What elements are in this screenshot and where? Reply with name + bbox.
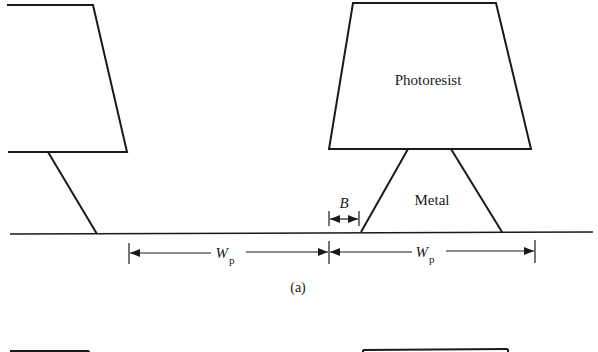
photoresist-metal-cross-section-diagram: Photoresist Metal B Wp Wp [0, 0, 598, 352]
substrate-line [10, 232, 593, 234]
metal-label: Metal [415, 192, 450, 208]
bias-label: B [339, 195, 348, 211]
left-metal-sidewall [48, 152, 97, 234]
photoresist-label: Photoresist [395, 72, 463, 88]
pitch-dimension-left: Wp [129, 243, 328, 266]
pitch-label-left: Wp [216, 245, 236, 266]
left-photoresist-block [7, 5, 127, 152]
figure-caption: (a) [290, 280, 306, 296]
right-photoresist-block: Photoresist [329, 3, 531, 149]
right-metal-block: Metal [361, 149, 502, 232]
pitch-dimension-right: Wp [329, 240, 535, 265]
bias-dimension: B [329, 195, 359, 226]
pitch-label-right: Wp [416, 244, 436, 265]
